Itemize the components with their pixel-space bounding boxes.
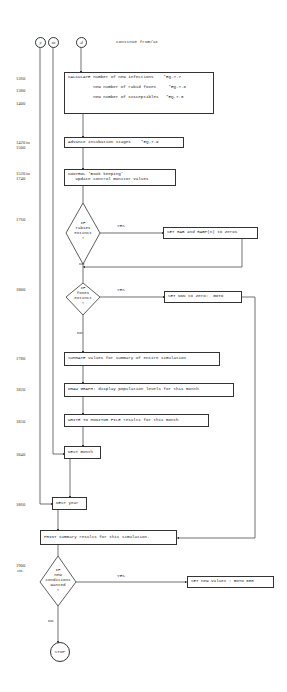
- write-monitor-box: WRITE TO MONITOR FILE results for this m…: [64, 414, 209, 427]
- stop-terminal: STOP: [50, 642, 70, 662]
- advance-incubation-box: Advance incubation stages *EQ.7.9: [64, 137, 184, 148]
- rabies-no-label: NO: [79, 261, 84, 266]
- line-number-1780: 1780: [16, 356, 25, 361]
- print-summary-box: PRINT summary results for this simulatio…: [40, 530, 177, 545]
- line-number-1840: 1840: [16, 452, 25, 457]
- rabies-yes-label: YES: [117, 223, 125, 228]
- rabies-extinct-decision: IF rabies extinct ?: [66, 221, 100, 241]
- line-number-1760: 1760: [16, 217, 25, 222]
- draw-graph-box: DRAW GRAPH: display population levels fo…: [64, 383, 234, 397]
- line-number-1360: 1360: [16, 76, 25, 81]
- connector-y: y: [35, 37, 46, 48]
- line-number-1800: 1800: [16, 287, 25, 292]
- set-non-box: SET NON to Zero: GOTO: [164, 291, 242, 303]
- line-number-1380: 1380: [16, 88, 25, 93]
- continues-label: continue from/at: [116, 39, 158, 44]
- next-year-box: NEXT year: [52, 497, 87, 510]
- line-number-1520: 1520 to 1740: [16, 171, 30, 181]
- line-number-1860: 1860: [16, 502, 25, 507]
- line-number-1900: 1900 etc.: [16, 563, 25, 573]
- summate-box: SUMMATE values for summary of entire sim…: [64, 352, 220, 366]
- new-conditions-decision: IF new conditions wanted ?: [40, 568, 76, 593]
- foxes-no-label: NO: [77, 330, 82, 335]
- set-rab-box: SET RAB and RABP(n) to Zeros: [163, 227, 258, 239]
- line-number-1420: 1420 to 1500: [16, 140, 30, 150]
- calculate-box: CALCULATE number of new infections *EQ.7…: [64, 72, 214, 114]
- new-conditions-no-label: NO: [48, 618, 53, 623]
- foxes-yes-label: YES: [117, 287, 125, 292]
- control-box: CONTROL 'Book keeping' Update control mo…: [64, 169, 176, 186]
- connector-m: m: [48, 37, 59, 48]
- next-month-box: NEXT month: [64, 446, 101, 459]
- line-number-1820: 1820: [16, 387, 25, 392]
- new-conditions-yes-label: YES: [117, 573, 125, 578]
- set-new-values-box: SET new values : GOTO 880: [187, 576, 274, 588]
- foxes-extinct-decision: IF foxes extinct ?: [66, 286, 100, 306]
- line-number-1400: 1400: [16, 101, 25, 106]
- line-number-1850: 1850: [16, 419, 25, 424]
- connector-d: d: [76, 37, 87, 48]
